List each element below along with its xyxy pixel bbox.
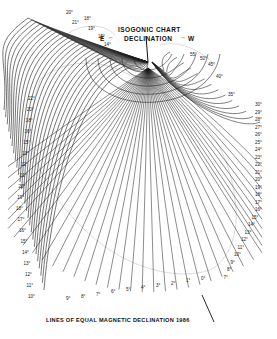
degree-labels: 20°21°18°19°15°14°55°50°45°40°35°22°20°1…	[16, 10, 262, 301]
degree-label: 16°	[19, 228, 26, 233]
degree-label: 11°	[238, 245, 245, 250]
degree-label: 6°	[111, 289, 116, 294]
degree-label: 50°	[200, 56, 207, 61]
degree-label: 19°	[255, 185, 262, 190]
degree-label: 18°	[84, 16, 91, 21]
degree-label: 30°	[255, 102, 262, 107]
degree-label: 20°	[255, 177, 262, 182]
degree-label: 17°	[18, 217, 25, 222]
degree-label: 4°	[141, 285, 146, 290]
degree-label: 8°	[227, 267, 232, 272]
isogonic-map: 20°21°18°19°15°14°55°50°45°40°35°22°20°1…	[0, 0, 277, 339]
degree-label: 15°	[252, 215, 259, 220]
degree-label: 12°	[25, 272, 32, 277]
degree-label: 13°	[22, 151, 29, 156]
degree-label: 14°	[248, 222, 255, 227]
degree-label: 18°	[16, 206, 23, 211]
degree-label: 14°	[104, 42, 111, 47]
degree-label: 10°	[234, 252, 241, 257]
degree-label: 8°	[81, 294, 86, 299]
chart-subtitle: DECLINATION	[124, 35, 172, 42]
degree-label: 29°	[255, 110, 262, 115]
degree-label: 15°	[23, 140, 30, 145]
degree-label: 12°	[241, 237, 248, 242]
caption-pointer	[202, 295, 214, 322]
degree-label: 17°	[255, 200, 262, 205]
degree-label: 21°	[255, 170, 262, 175]
degree-label: 25°	[255, 140, 262, 145]
degree-label: 20°	[66, 10, 73, 15]
degree-label: 24°	[255, 147, 262, 152]
degree-label: 45°	[208, 62, 215, 67]
degree-label: 28°	[255, 117, 262, 122]
arrow-left-icon: ←	[108, 34, 114, 40]
map-caption: LINES OF EQUAL MAGNETIC DECLINATION 1986	[46, 317, 190, 323]
degree-label: 10°	[28, 294, 35, 299]
degree-label: 21°	[20, 173, 27, 178]
degree-label: 11°	[27, 283, 34, 288]
degree-label: 18°	[26, 118, 33, 123]
degree-label: 7°	[224, 275, 229, 280]
degree-label: 22°	[28, 96, 35, 101]
degree-label: 15°	[21, 239, 28, 244]
degree-label: 16°	[255, 207, 262, 212]
degree-label: 13°	[24, 261, 31, 266]
degree-label: 9°	[231, 260, 236, 265]
degree-label: 12°	[21, 162, 28, 167]
degree-label: 20°	[27, 107, 34, 112]
degree-label: 1°	[186, 278, 191, 283]
degree-label: 27°	[255, 125, 262, 130]
degree-label: 55°	[190, 52, 197, 57]
degree-label: 18°	[255, 192, 262, 197]
degree-label: 14°	[22, 250, 29, 255]
degree-label: 23°	[255, 155, 262, 160]
degree-label: 21°	[72, 20, 79, 25]
degree-label: 20°	[18, 184, 25, 189]
degree-label: 40°	[216, 74, 223, 79]
degree-label: 19°	[88, 26, 95, 31]
degree-label: 22°	[255, 162, 262, 167]
degree-label: 2°	[171, 281, 176, 286]
degree-label: 35°	[228, 92, 235, 97]
degree-label: 13°	[245, 230, 252, 235]
degree-label: 0°	[201, 276, 206, 281]
degree-label: 5°	[126, 287, 131, 292]
east-label: E	[100, 35, 105, 42]
degree-label: 9°	[66, 296, 71, 301]
chart-title: ISOGONIC CHART	[118, 26, 181, 33]
degree-label: 16°	[24, 129, 31, 134]
degree-label: 26°	[255, 132, 262, 137]
degree-label: 3°	[156, 283, 161, 288]
west-label: W	[188, 35, 195, 42]
arrow-right-icon: →	[180, 34, 186, 40]
degree-label: 7°	[96, 292, 101, 297]
degree-label: 19°	[17, 195, 24, 200]
